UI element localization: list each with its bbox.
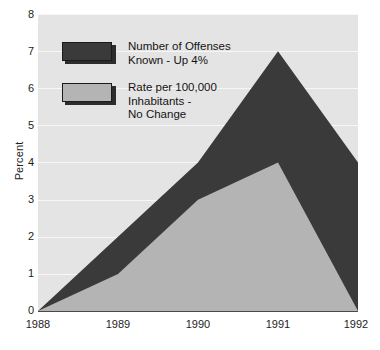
legend-label-offenses: Number of Offenses Known - Up 4% xyxy=(128,40,292,67)
area-chart: Percent 8 7 6 5 4 3 2 1 0 1988 1989 1990… xyxy=(0,0,380,350)
x-axis-tick-labels: 1988 1989 1990 1991 1992 xyxy=(0,318,380,338)
y-tick-5: 5 xyxy=(10,120,34,131)
y-tick-0: 0 xyxy=(10,305,34,316)
legend-item-offenses: Number of Offenses Known - Up 4% xyxy=(62,40,292,67)
y-tick-1: 1 xyxy=(10,268,34,279)
y-axis-tick-labels: 8 7 6 5 4 3 2 1 0 xyxy=(6,0,34,350)
legend-swatch-rate xyxy=(62,83,116,105)
x-tick-1990: 1990 xyxy=(173,318,223,330)
x-tick-1988: 1988 xyxy=(13,318,63,330)
y-tick-3: 3 xyxy=(10,194,34,205)
legend-label-rate: Rate per 100,000 Inhabitants - No Change xyxy=(128,81,292,122)
y-tick-2: 2 xyxy=(10,231,34,242)
x-axis-line xyxy=(38,311,358,312)
chart-legend: Number of Offenses Known - Up 4% Rate pe… xyxy=(62,40,292,136)
legend-swatch-fill-light xyxy=(62,83,112,102)
x-tick-1991: 1991 xyxy=(253,318,303,330)
legend-item-rate: Rate per 100,000 Inhabitants - No Change xyxy=(62,81,292,122)
x-tick-1989: 1989 xyxy=(93,318,143,330)
legend-swatch-offenses xyxy=(62,42,116,64)
y-tick-4: 4 xyxy=(10,157,34,168)
y-tick-7: 7 xyxy=(10,46,34,57)
y-tick-8: 8 xyxy=(10,9,34,20)
y-tick-6: 6 xyxy=(10,83,34,94)
x-tick-1992: 1992 xyxy=(331,318,380,330)
legend-swatch-fill-dark xyxy=(62,42,112,61)
